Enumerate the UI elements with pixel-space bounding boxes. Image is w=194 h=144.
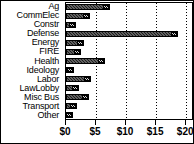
- bar-row: [66, 12, 192, 21]
- bar-end-cap: [72, 86, 78, 90]
- bar: [66, 112, 73, 118]
- value-axis: $0$5$10$15$20: [65, 120, 193, 142]
- bar-end-cap: [77, 41, 83, 45]
- bar: [66, 13, 90, 19]
- bar-series: [66, 3, 192, 119]
- bar: [66, 67, 74, 73]
- bar-end-cap: [69, 23, 75, 27]
- bar-row: [66, 110, 192, 119]
- bar-row: [66, 101, 192, 110]
- bar-end-cap: [66, 113, 72, 117]
- category-label: Other: [0, 111, 62, 120]
- bar-row: [66, 48, 192, 57]
- bar-end-cap: [67, 68, 73, 72]
- bar-row: [66, 74, 192, 83]
- bar-end-cap: [74, 50, 80, 54]
- plot-area: [65, 2, 193, 120]
- bar: [66, 85, 79, 91]
- axis-tick: [65, 120, 66, 125]
- axis-tick-label: $20: [177, 126, 194, 137]
- bar-row: [66, 57, 192, 66]
- axis-tick-label: $10: [117, 126, 134, 137]
- bar-end-cap: [98, 59, 104, 63]
- bar: [66, 94, 89, 100]
- bar-row: [66, 39, 192, 48]
- bar: [66, 103, 77, 109]
- bar: [66, 76, 91, 82]
- bar: [66, 22, 76, 28]
- bar-row: [66, 30, 192, 39]
- axis-tick-label: $5: [89, 126, 100, 137]
- bar-end-cap: [84, 77, 90, 81]
- bar-end-cap: [171, 32, 177, 36]
- axis-tick: [95, 120, 96, 125]
- bar: [66, 58, 105, 64]
- bar-row: [66, 83, 192, 92]
- category-axis: AgCommElecConstrDefenseEnergyFIREHealthI…: [0, 2, 62, 120]
- axis-tick: [155, 120, 156, 125]
- bar-row: [66, 92, 192, 101]
- bar-end-cap: [83, 14, 89, 18]
- axis-tick-label: $15: [147, 126, 164, 137]
- bar: [66, 40, 84, 46]
- bar-row: [66, 3, 192, 12]
- axis-tick-label: $0: [59, 126, 70, 137]
- bar-end-cap: [70, 104, 76, 108]
- bar: [66, 49, 81, 55]
- axis-tick: [185, 120, 186, 125]
- bar-chart: AgCommElecConstrDefenseEnergyFIREHealthI…: [0, 0, 194, 144]
- bar-end-cap: [103, 5, 109, 9]
- bar: [66, 4, 110, 10]
- bar-row: [66, 65, 192, 74]
- bar-row: [66, 21, 192, 30]
- axis-tick: [125, 120, 126, 125]
- bar-end-cap: [82, 95, 88, 99]
- bar: [66, 31, 178, 37]
